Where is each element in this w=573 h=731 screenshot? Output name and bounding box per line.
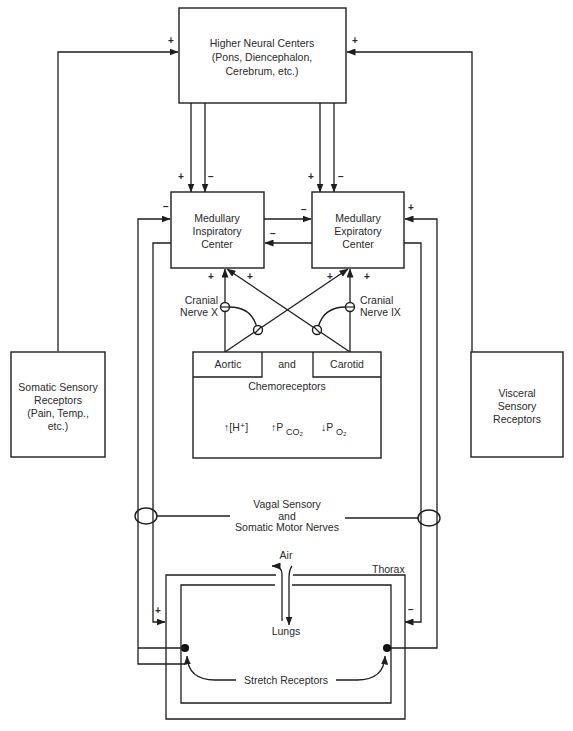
higher-centers-label-2: (Pons, Diencephalon,	[212, 51, 312, 63]
visceral-label-3: Receptors	[493, 413, 541, 425]
exp-center-label-2: Expiratory	[334, 225, 382, 237]
thorax-outline	[166, 575, 405, 719]
chemoreceptors-box: Aortic and Carotid Chemoreceptors ↑[H⁺] …	[193, 352, 381, 458]
stretch-to-insp-arrow	[138, 219, 185, 664]
cnx-to-exp-sign: +	[327, 271, 333, 282]
visceral-to-higher-sign: +	[352, 35, 358, 46]
cranial-nerve-ix-ganglion-icon	[346, 303, 355, 312]
stretch-right-pointer-arrow	[336, 656, 385, 680]
air-label: Air	[280, 549, 293, 561]
exp-center-label-1: Medullary	[335, 212, 381, 224]
cranial-nerve-x-synapse-icon	[254, 326, 263, 335]
cranial-nerve-x-label-1: Cranial	[185, 294, 218, 306]
cranial-nerve-ix-label-2: Nerve IX	[360, 306, 401, 318]
thorax-label: Thorax	[372, 563, 405, 575]
higher-centers-label-3: Cerebrum, etc.)	[226, 65, 299, 77]
insp-to-thorax-arrow	[153, 243, 171, 622]
cnix-to-exp-sign: +	[364, 271, 370, 282]
cranial-nerve-x-label-2: Nerve X	[180, 306, 218, 318]
insp-center-label-3: Center	[201, 238, 233, 250]
somatic-label-4: etc.)	[48, 420, 68, 432]
cranial-nerve-x-arc	[229, 307, 257, 328]
higher-to-exp-inhibit-sign: −	[338, 171, 344, 182]
exp-to-thorax-arrow	[404, 243, 421, 622]
stretch-to-exp-sign: +	[408, 202, 414, 213]
higher-neural-centers-box: Higher Neural Centers (Pons, Diencephalo…	[179, 8, 346, 103]
air-in-arrow	[289, 566, 292, 625]
and-label: and	[278, 358, 296, 370]
exp-center-label-3: Center	[342, 238, 374, 250]
cranial-nerve-ix-synapse-icon	[313, 326, 322, 335]
air-out-arrow	[272, 566, 282, 621]
insp-center-label-2: Inspiratory	[192, 225, 242, 237]
right-stretch-receptor-icon	[383, 644, 391, 652]
lungs-label: Lungs	[272, 625, 301, 637]
somatic-label-1: Somatic Sensory	[18, 381, 98, 393]
somatic-to-higher-arrow	[58, 52, 178, 351]
stimulus-hydrogen-ion: ↑[H⁺]	[224, 421, 248, 433]
nerves-label-1: Vagal Sensory	[253, 498, 321, 510]
higher-to-exp-excite-sign: +	[308, 171, 314, 182]
carotid-label: Carotid	[330, 358, 364, 370]
inspiratory-center-box: Medullary Inspiratory Center	[171, 192, 264, 268]
stimulus-po2-sub: O₂	[336, 427, 347, 437]
stimulus-pco2: ↑P	[271, 421, 283, 433]
cnix-to-insp-sign: +	[247, 271, 253, 282]
chemoreceptors-label: Chemoreceptors	[248, 380, 326, 392]
expiratory-center-box: Medullary Expiratory Center	[312, 192, 404, 268]
insp-to-exp-sign: −	[301, 204, 307, 215]
stretch-receptors-label: Stretch Receptors	[244, 674, 328, 686]
somatic-to-higher-sign: +	[168, 35, 174, 46]
somatic-sensory-receptors-box: Somatic Sensory Receptors (Pain, Temp., …	[11, 352, 105, 457]
aortic-label: Aortic	[215, 358, 242, 370]
cranial-nerve-x-ganglion-icon	[221, 303, 230, 312]
cranial-nerve-ix-label-1: Cranial	[360, 294, 393, 306]
visceral-label-1: Visceral	[498, 387, 535, 399]
stretch-left-pointer-arrow	[187, 656, 236, 680]
visceral-label-2: Sensory	[498, 400, 537, 412]
insp-to-thorax-sign: +	[155, 605, 161, 616]
visceral-sensory-receptors-box: Visceral Sensory Receptors	[471, 352, 563, 457]
higher-centers-label-1: Higher Neural Centers	[210, 37, 314, 49]
respiratory-control-diagram: Higher Neural Centers (Pons, Diencephalo…	[0, 0, 573, 731]
cranial-nerve-ix-arc	[318, 307, 346, 328]
stimulus-pco2-sub: CO₂	[286, 427, 304, 437]
insp-center-label-1: Medullary	[194, 212, 240, 224]
stretch-to-insp-sign: −	[163, 201, 169, 212]
somatic-label-3: (Pain, Temp.,	[27, 407, 89, 419]
exp-to-thorax-sign: −	[408, 604, 414, 615]
nerves-label-3: Somatic Motor Nerves	[235, 521, 339, 533]
somatic-label-2: Receptors	[34, 394, 82, 406]
exp-to-insp-sign: −	[270, 228, 276, 239]
higher-to-insp-inhibit-sign: −	[208, 171, 214, 182]
stretch-to-exp-arrow	[387, 219, 437, 648]
higher-to-insp-excite-sign: +	[178, 171, 184, 182]
stimulus-po2: ↓P	[321, 421, 333, 433]
cnx-to-insp-sign: +	[208, 271, 214, 282]
